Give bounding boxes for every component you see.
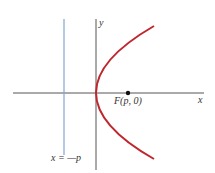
y-axis-label: y [98,17,104,28]
parabola-diagram: y x F(p, 0) x = —p [0,0,215,173]
directrix-label: x = —p [50,152,81,163]
x-axis-label: x [197,94,203,105]
focus-label: F(p, 0) [113,95,142,107]
